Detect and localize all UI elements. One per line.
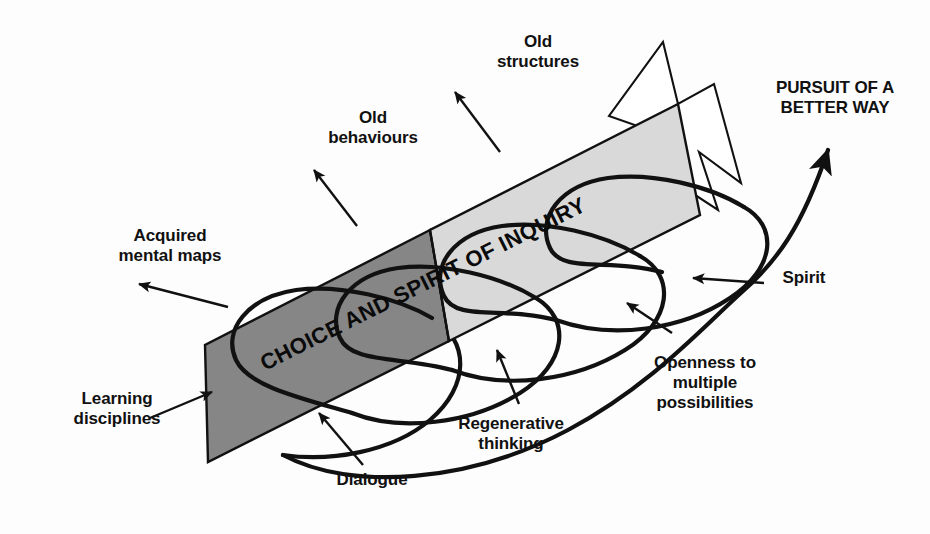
label-dialogue: Dialogue [322, 470, 422, 490]
arrow-old-behaviours [314, 170, 357, 226]
label-old-behaviours: Old behaviours [313, 108, 433, 148]
arrow-regenerative [497, 350, 519, 404]
label-pursuit-of-a-better-way: PURSUIT OF A BETTER WAY [760, 78, 910, 118]
label-learning-disciplines: Learning disciplines [52, 389, 182, 429]
arrow-old-structures [455, 92, 500, 152]
label-openness-to-multiple-possibilities: Openness to multiple possibilities [629, 353, 781, 413]
arrow-acquired-maps [139, 284, 228, 307]
label-old-structures: Old structures [483, 32, 593, 72]
label-spirit: Spirit [769, 268, 839, 288]
diagram-canvas: CHOICE AND SPIRIT OF INQUIRY Old structu… [0, 0, 930, 534]
label-regenerative-thinking: Regenerative thinking [438, 414, 584, 454]
label-acquired-mental-maps: Acquired mental maps [90, 226, 250, 266]
